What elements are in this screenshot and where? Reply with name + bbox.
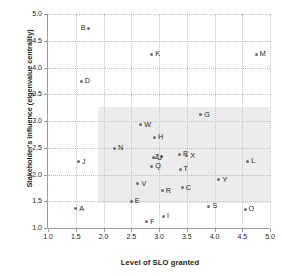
data-point-marker-s xyxy=(207,205,210,208)
y-tick-label: 4.5 xyxy=(12,37,42,44)
x-tick-label: 1.0 xyxy=(33,233,63,240)
y-tick-mark xyxy=(44,14,47,15)
x-tick-mark xyxy=(48,229,49,232)
data-point-label-v: V xyxy=(141,180,146,187)
data-point-label-o: O xyxy=(249,206,255,213)
x-tick-mark xyxy=(76,229,77,232)
x-tick-mark xyxy=(242,229,243,232)
gridline-vertical xyxy=(270,14,271,228)
data-point-label-q: Q xyxy=(155,163,161,170)
gridline-horizontal xyxy=(48,68,270,69)
scatter-plot-figure: Stakeholder's influence (eigenvalue cent… xyxy=(0,0,282,276)
y-tick-label: 1.5 xyxy=(12,197,42,204)
y-tick-label: 1.0 xyxy=(12,224,42,231)
data-point-label-t: T xyxy=(184,166,188,173)
x-tick-label: 4.0 xyxy=(200,233,230,240)
data-point-label-r: R xyxy=(166,187,171,194)
x-tick-label: 3.5 xyxy=(172,233,202,240)
y-tick-mark xyxy=(44,175,47,176)
x-tick-label: 3.0 xyxy=(144,233,174,240)
x-tick-mark xyxy=(159,229,160,232)
x-tick-mark xyxy=(215,229,216,232)
data-point-marker-f xyxy=(145,220,148,223)
data-point-marker-n xyxy=(113,147,116,150)
data-point-marker-p xyxy=(178,153,181,156)
data-point-label-x: X xyxy=(190,152,195,159)
x-tick-mark xyxy=(131,229,132,232)
data-point-marker-h xyxy=(153,136,156,139)
data-point-label-w: W xyxy=(144,121,151,128)
x-tick-label: 4.5 xyxy=(227,233,257,240)
y-tick-label: 4.0 xyxy=(12,64,42,71)
data-point-label-n: N xyxy=(118,145,123,152)
y-tick-mark xyxy=(44,68,47,69)
data-point-label-i: I xyxy=(167,213,169,220)
gridline-horizontal xyxy=(48,175,270,176)
x-tick-label: 1.5 xyxy=(61,233,91,240)
y-tick-label: 2.0 xyxy=(12,171,42,178)
x-tick-mark xyxy=(187,229,188,232)
y-tick-label: 3.5 xyxy=(12,90,42,97)
data-point-label-m: M xyxy=(260,51,266,58)
y-tick-mark xyxy=(44,201,47,202)
data-point-label-c: C xyxy=(186,184,191,191)
y-tick-label: 5.0 xyxy=(12,10,42,17)
data-point-marker-d xyxy=(80,80,83,83)
data-point-label-s: S xyxy=(212,202,217,209)
data-point-marker-e xyxy=(130,200,133,203)
data-point-label-l: L xyxy=(251,158,255,165)
y-axis-line xyxy=(47,14,48,229)
data-point-label-f: F xyxy=(150,218,154,225)
y-tick-label: 3.0 xyxy=(12,117,42,124)
y-tick-mark xyxy=(44,41,47,42)
x-axis-title: Level of SLO granted xyxy=(48,258,272,267)
gridline-horizontal xyxy=(48,201,270,202)
data-point-label-u: U xyxy=(157,154,162,161)
gridline-horizontal xyxy=(48,94,270,95)
data-point-label-e: E xyxy=(135,198,140,205)
y-tick-mark xyxy=(44,228,47,229)
data-point-label-y: Y xyxy=(222,176,227,183)
y-tick-label: 2.5 xyxy=(12,144,42,151)
data-point-marker-b xyxy=(87,27,90,30)
data-point-marker-o xyxy=(244,208,247,211)
gridline-horizontal xyxy=(48,121,270,122)
data-point-label-j: J xyxy=(82,158,86,165)
y-tick-mark xyxy=(44,94,47,95)
y-tick-mark xyxy=(44,121,47,122)
gridline-horizontal xyxy=(48,148,270,149)
data-point-label-d: D xyxy=(85,78,90,85)
data-point-label-g: G xyxy=(204,111,210,118)
data-point-label-a: A xyxy=(79,205,84,212)
y-tick-mark xyxy=(44,148,47,149)
data-point-marker-t xyxy=(179,168,182,171)
data-point-label-k: K xyxy=(155,51,160,58)
data-point-marker-j xyxy=(77,160,80,163)
data-point-marker-r xyxy=(161,189,164,192)
data-point-marker-m xyxy=(255,53,258,56)
data-point-marker-k xyxy=(150,53,153,56)
plot-area: BMKDGWHNPXZULJQTYVCRESAOIF xyxy=(48,14,270,228)
x-tick-mark xyxy=(104,229,105,232)
data-point-marker-i xyxy=(162,215,165,218)
data-point-label-h: H xyxy=(158,133,163,140)
x-tick-label: 5.0 xyxy=(255,233,282,240)
data-point-label-b: B xyxy=(81,25,86,32)
x-tick-mark xyxy=(270,229,271,232)
data-point-marker-a xyxy=(74,207,77,210)
x-tick-label: 2.0 xyxy=(89,233,119,240)
gridline-horizontal xyxy=(48,14,270,15)
gridline-horizontal xyxy=(48,41,270,42)
x-tick-label: 2.5 xyxy=(116,233,146,240)
